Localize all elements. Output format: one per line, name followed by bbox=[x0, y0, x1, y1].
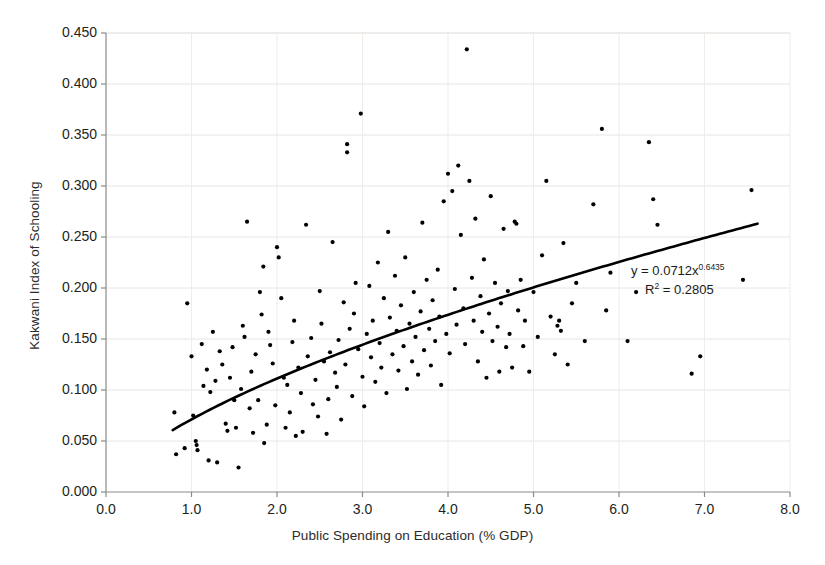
trendline bbox=[173, 224, 758, 430]
scatter-chart: Kakwani Index of Schooling Public Spendi… bbox=[0, 0, 825, 565]
data-points bbox=[172, 47, 753, 469]
r2-prefix: R bbox=[645, 282, 654, 297]
r2-value: = 0.2805 bbox=[659, 282, 714, 297]
equation-exponent: 0.6435 bbox=[699, 262, 725, 272]
trendline-equation-label: y = 0.0712x0.6435 bbox=[631, 262, 725, 278]
trendline-r2-label: R2 = 0.2805 bbox=[645, 281, 714, 297]
equation-text: y = 0.0712x bbox=[631, 263, 699, 278]
